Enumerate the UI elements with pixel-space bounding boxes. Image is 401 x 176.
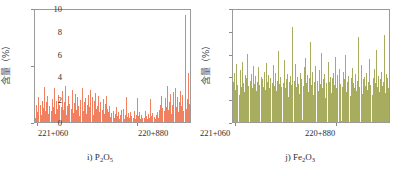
y-tick-label-0: 0 [58,118,62,128]
caption-subscript-3: 3 [312,156,315,163]
x-tickmark-mid [137,123,138,126]
caption-element-o: O [305,152,312,162]
y-tickmark-0 [31,123,34,124]
y-tick-label-10: 10 [54,4,63,14]
caption-subscript-2: 2 [302,156,305,163]
bars-svg-fe2o3 [233,10,389,122]
plot-area-fe2o3 [232,9,390,123]
x-tickmark-start [37,123,38,126]
panel-caption-fe2o3: j) Fe2O3 [200,152,400,162]
y-tick-label-8: 8 [58,27,62,37]
x-tickmark-mid [336,123,337,126]
y-tick-label-4: 4 [58,72,62,82]
panel-fe2o3: 含量（%） 10 8 6 4 2 0 221+060 220+880 j) Fe… [200,0,400,176]
x-tick-label-start: 221+060 [200,128,230,138]
y-axis-ticks-left: 2 1 0 [0,0,34,176]
caption-element-o: O [103,152,110,162]
x-tickmark-start [235,123,236,126]
x-tick-label-mid: 220+880 [138,128,168,138]
x-tick-label-start: 221+060 [38,128,68,138]
x-tick-label-mid: 220+880 [305,128,335,138]
figure-two-panel-bar-charts: 含量（%） 2 1 0 221+060 220+880 i) P2O5 含量（%… [0,0,401,176]
y-tickmark-0 [229,123,232,124]
y-tick-label-6: 6 [58,50,62,60]
caption-subscript-2: 2 [100,156,103,163]
caption-element-fe: Fe [293,152,302,162]
y-axis-ticks-right: 10 8 6 4 2 0 [200,0,234,176]
bar-series-fe2o3 [233,10,389,122]
y-tick-label-2: 2 [58,95,62,105]
panel-p2o5: 含量（%） 2 1 0 221+060 220+880 i) P2O5 [0,0,200,176]
panel-caption-p2o5: i) P2O5 [0,152,200,162]
caption-subscript-5: 5 [110,156,113,163]
